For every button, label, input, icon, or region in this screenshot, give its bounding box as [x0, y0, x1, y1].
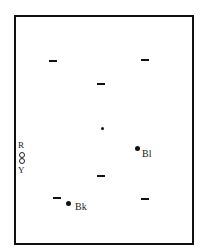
dash-marker-5 [53, 197, 61, 199]
label-bk: Bk [75, 202, 87, 212]
dash-marker-1 [49, 60, 57, 62]
diagram-frame [14, 15, 194, 245]
dash-marker-2 [141, 59, 149, 61]
side-label-r: R [18, 141, 24, 150]
circle-icon-lower [19, 158, 25, 164]
side-label-y: Y [18, 166, 25, 175]
dash-marker-3 [97, 83, 105, 85]
dash-marker-4 [97, 175, 105, 177]
dot-bl [135, 146, 140, 151]
label-bl: Bl [142, 149, 151, 159]
dot-bk [66, 201, 71, 206]
center-dot [101, 127, 104, 130]
dash-marker-6 [141, 198, 149, 200]
